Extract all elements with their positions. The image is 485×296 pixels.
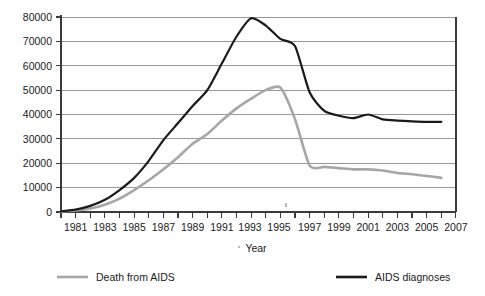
y-label-50000: 50000	[23, 84, 52, 96]
chart-svg: 80000 70000 60000 50000 40000 30000 2000…	[0, 0, 485, 296]
x-label-1983: 1983	[93, 221, 117, 233]
x-label-1987: 1987	[152, 221, 176, 233]
x-label-1995: 1995	[267, 221, 291, 233]
gridlines	[61, 17, 456, 188]
x-axis-ticks	[61, 212, 456, 218]
x-label-2005: 2005	[415, 221, 439, 233]
x-label-1993: 1993	[238, 221, 262, 233]
x-label-1989: 1989	[181, 221, 205, 233]
x-label-1985: 1985	[122, 221, 146, 233]
artifact-speck-2	[238, 246, 240, 248]
y-label-70000: 70000	[23, 35, 52, 47]
x-label-2007: 2007	[444, 221, 468, 233]
aids-statistics-line-chart: 80000 70000 60000 50000 40000 30000 2000…	[0, 0, 485, 296]
x-axis-title: Year	[245, 242, 267, 254]
y-label-80000: 80000	[23, 11, 52, 23]
legend-label-aids-diagnoses: AIDS diagnoses	[375, 271, 450, 283]
x-label-1997: 1997	[298, 221, 322, 233]
y-label-0: 0	[46, 206, 52, 218]
legend-label-death-from-aids: Death from AIDS	[96, 271, 175, 283]
y-label-40000: 40000	[23, 108, 52, 120]
x-label-2001: 2001	[356, 221, 380, 233]
x-label-1999: 1999	[327, 221, 351, 233]
x-label-1991: 1991	[210, 221, 234, 233]
y-label-10000: 10000	[23, 181, 52, 193]
plot-frame	[60, 15, 456, 214]
x-label-1981: 1981	[64, 221, 88, 233]
legend: Death from AIDS AIDS diagnoses	[57, 271, 450, 283]
y-label-60000: 60000	[23, 60, 52, 72]
x-label-2003: 2003	[386, 221, 410, 233]
y-label-30000: 30000	[23, 133, 52, 145]
series-line-death-from-aids	[61, 87, 441, 212]
y-axis-labels: 80000 70000 60000 50000 40000 30000 2000…	[23, 11, 52, 218]
artifact-speck	[285, 203, 287, 207]
y-label-20000: 20000	[23, 157, 52, 169]
x-axis-labels: 1981 1983 1985 1987 1989 1991 1993 1995 …	[64, 221, 468, 233]
